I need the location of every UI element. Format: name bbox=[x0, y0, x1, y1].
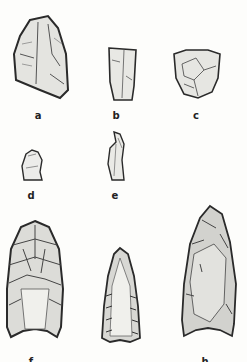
artifact-h-drawing bbox=[180, 204, 238, 344]
artifact-f-drawing bbox=[5, 219, 65, 343]
artifact-b-drawing bbox=[106, 46, 140, 102]
artifact-g-drawing bbox=[100, 246, 142, 344]
artifact-plate: a b c d e f h bbox=[0, 0, 247, 362]
artifact-a-drawing bbox=[12, 14, 70, 100]
label-f: f bbox=[24, 357, 38, 362]
label-d: d bbox=[24, 191, 38, 201]
label-h: h bbox=[198, 357, 212, 362]
label-c: c bbox=[189, 111, 203, 121]
label-b: b bbox=[109, 111, 123, 121]
artifact-e-drawing bbox=[104, 130, 128, 182]
artifact-d-drawing bbox=[20, 148, 46, 182]
label-a: a bbox=[31, 111, 45, 121]
label-e: e bbox=[108, 191, 122, 201]
artifact-c-drawing bbox=[172, 48, 222, 100]
